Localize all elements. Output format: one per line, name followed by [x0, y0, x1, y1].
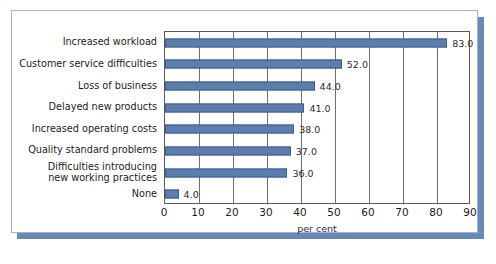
- bar[interactable]: [165, 60, 342, 69]
- bar-value-label: 41.0: [304, 102, 330, 113]
- chart-card: Increased workloadCustomer service diffi…: [11, 10, 478, 233]
- x-axis-tick-label: 70: [395, 206, 408, 218]
- y-axis-label: None: [132, 188, 157, 199]
- bar-row: 44.0: [165, 75, 469, 97]
- y-axis-category-labels: Increased workloadCustomer service diffi…: [24, 31, 161, 204]
- figure-shadow-right: [478, 17, 484, 239]
- x-axis-title: per cent: [164, 223, 470, 234]
- bar-value-label: 4.0: [179, 189, 199, 200]
- bar-row: 52.0: [165, 54, 469, 76]
- bar-row: 37.0: [165, 140, 469, 162]
- y-axis-label: Increased operating costs: [32, 123, 157, 134]
- x-axis-tick-label: 20: [225, 206, 238, 218]
- x-axis-tick-label: 80: [429, 206, 442, 218]
- x-axis-tick-label: 90: [463, 206, 476, 218]
- x-axis-tick-label: 60: [361, 206, 374, 218]
- y-axis-label: Difficulties introducingnew working prac…: [22, 161, 157, 183]
- bar-row: 4.0: [165, 183, 469, 205]
- y-axis-label: Increased workload: [63, 36, 157, 47]
- bar-value-label: 83.0: [447, 37, 473, 48]
- bar-row: 83.0: [165, 32, 469, 54]
- bar[interactable]: [165, 103, 304, 112]
- y-axis-label: Customer service difficulties: [19, 58, 157, 69]
- y-axis-label: Delayed new products: [49, 101, 157, 112]
- bar-rows: 83.052.044.041.038.037.036.04.0: [165, 32, 469, 203]
- bar[interactable]: [165, 38, 447, 47]
- bar-row: 38.0: [165, 119, 469, 141]
- x-axis-tick-label: 50: [327, 206, 340, 218]
- x-axis-tick-labels: 0102030405060708090: [164, 206, 470, 222]
- bar-value-label: 36.0: [287, 167, 313, 178]
- bar[interactable]: [165, 190, 179, 199]
- bar-value-label: 44.0: [315, 81, 341, 92]
- y-axis-label: Quality standard problems: [28, 144, 157, 155]
- figure-container: Increased workloadCustomer service diffi…: [0, 0, 496, 264]
- x-axis-tick-label: 10: [191, 206, 204, 218]
- x-axis-tick-label: 0: [161, 206, 168, 218]
- plot-area: 83.052.044.041.038.037.036.04.0: [164, 31, 470, 204]
- bar[interactable]: [165, 168, 287, 177]
- bar-value-label: 38.0: [294, 124, 320, 135]
- bar[interactable]: [165, 125, 294, 134]
- bar-row: 41.0: [165, 97, 469, 119]
- bar-row: 36.0: [165, 162, 469, 184]
- x-axis-tick-label: 30: [259, 206, 272, 218]
- y-axis-label: Loss of business: [78, 80, 157, 91]
- x-axis-tick-label: 40: [293, 206, 306, 218]
- bar-value-label: 52.0: [342, 59, 368, 70]
- bar[interactable]: [165, 146, 291, 155]
- bar[interactable]: [165, 82, 315, 91]
- bar-value-label: 37.0: [291, 145, 317, 156]
